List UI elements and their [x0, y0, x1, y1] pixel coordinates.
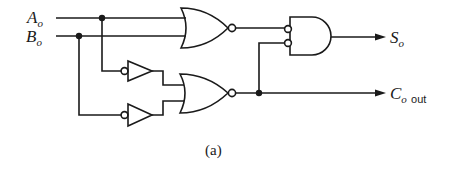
- and-gate: [290, 17, 331, 55]
- nor-gate-top: [181, 8, 228, 48]
- and-input-bubble-1: [285, 26, 292, 33]
- input-label-a: Ao: [27, 9, 43, 26]
- circuit-diagram: [0, 0, 451, 169]
- wire-b-branch: [79, 36, 121, 115]
- output-cout-suffix: out: [411, 93, 426, 105]
- nor-gate-bottom: [180, 74, 228, 113]
- and-input-bubble-2: [285, 40, 292, 47]
- input-label-b: Bo: [26, 28, 42, 45]
- input-a-main: A: [27, 8, 37, 27]
- output-cout-sub: o: [401, 93, 407, 105]
- inverter1-bubble: [121, 68, 128, 75]
- nor-bottom-bubble: [228, 89, 235, 96]
- wire-a-branch: [102, 18, 121, 71]
- output-s-main: S: [390, 28, 399, 47]
- arrow-s: [375, 34, 386, 41]
- input-b-main: B: [26, 27, 36, 46]
- output-s-sub: o: [399, 37, 405, 49]
- figure-caption: (a): [205, 142, 222, 159]
- arrow-cout: [375, 90, 386, 97]
- input-b-sub: o: [36, 36, 42, 48]
- wire-inv1-out: [152, 71, 184, 85]
- output-label-s: So: [390, 29, 404, 46]
- nor-top-bubble: [228, 24, 235, 31]
- output-label-cout: Co out: [390, 85, 426, 102]
- output-cout-main: C: [390, 84, 401, 103]
- inverter2-triangle: [128, 104, 152, 126]
- inverter1-triangle: [128, 61, 152, 81]
- wire-feedback-to-and: [259, 43, 285, 93]
- inverter2-bubble: [121, 112, 128, 119]
